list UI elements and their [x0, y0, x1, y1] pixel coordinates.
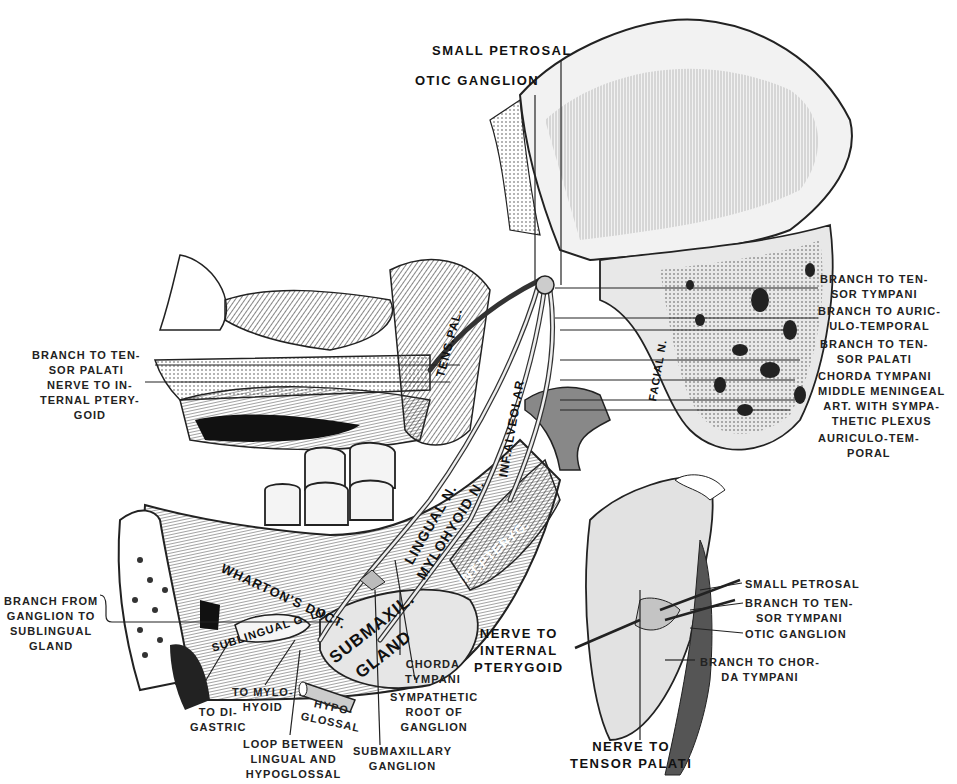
inset-label-branch-to-chorda-tympani: BRANCH TO CHOR- DA TYMPANI	[700, 655, 820, 685]
label-chorda-tympani-bottom: CHORDA TYMPANI	[405, 657, 461, 687]
label-line: SUBLINGUAL	[4, 624, 98, 639]
label-line: SUBMAXILLARY	[353, 744, 452, 759]
label-line: TO MYLO-	[232, 685, 294, 700]
label-line: SOR PALATI	[820, 352, 929, 367]
label-otic-ganglion: OTIC GANGLION	[415, 72, 539, 89]
label-line: NERVE TO	[570, 738, 692, 755]
label-line: ART. WITH SYMPA-	[818, 399, 945, 414]
label-branch-to-tensor-palati-right: BRANCH TO TEN- SOR PALATI	[820, 337, 929, 367]
label-loop-between-lingual-and-hypoglossal: LOOP BETWEEN LINGUAL AND HYPOGLOSSAL	[243, 737, 344, 782]
label-line: BRANCH TO TEN-	[820, 272, 929, 287]
label-line: ULO-TEMPORAL	[818, 319, 941, 334]
label-line: SMALL PETROSAL	[745, 577, 860, 592]
label-line: GANGLION	[390, 720, 478, 735]
label-branch-to-tensor-palati-left: BRANCH TO TEN- SOR PALATI	[32, 348, 141, 378]
label-line: PTERYGOID	[474, 659, 564, 676]
label-chorda-tympani-right: CHORDA TYMPANI	[818, 369, 932, 384]
label-line: TERNAL PTERY-	[40, 393, 140, 408]
label-line: THETIC PLEXUS	[818, 414, 945, 429]
label-line: MIDDLE MENINGEAL	[818, 384, 945, 399]
label-line: LOOP BETWEEN	[243, 737, 344, 752]
label-line: SYMPATHETIC	[390, 690, 478, 705]
label-line: BRANCH TO TEN-	[745, 596, 854, 611]
inset-label-branch-to-tensor-tympani: BRANCH TO TEN- SOR TYMPANI	[745, 596, 854, 626]
label-line: NERVE TO	[474, 625, 564, 642]
label-line: OTIC GANGLION	[745, 627, 847, 642]
maxilla-region	[155, 255, 430, 449]
label-line: TYMPANI	[405, 672, 461, 687]
label-line: BRANCH TO TEN-	[32, 348, 141, 363]
label-middle-meningeal-artery: MIDDLE MENINGEAL ART. WITH SYMPA- THETIC…	[818, 384, 945, 429]
label-line: TENSOR PALATI	[570, 755, 692, 772]
label-line: HYPOGLOSSAL	[243, 767, 344, 782]
label-line: BRANCH TO CHOR-	[700, 655, 820, 670]
inset-otic-ganglion	[575, 475, 740, 775]
label-line: NERVE TO IN-	[40, 378, 140, 393]
inset-label-small-petrosal: SMALL PETROSAL	[745, 577, 860, 592]
label-line: GASTRIC	[190, 720, 247, 735]
inset-label-nerve-to-internal-pterygoid: NERVE TO INTERNAL PTERYGOID	[474, 625, 564, 676]
label-small-petrosal: SMALL PETROSAL	[432, 42, 572, 59]
label-branch-from-ganglion-to-sublingual: BRANCH FROM GANGLION TO SUBLINGUAL GLAND	[4, 594, 98, 654]
label-auriculotemporal: AURICULO-TEM- PORAL	[818, 431, 920, 461]
molar-teeth	[265, 443, 395, 525]
label-line: GANGLION	[353, 759, 452, 774]
otic-ganglion-mark	[536, 276, 554, 294]
label-line: AURICULO-TEM-	[818, 431, 920, 446]
label-line: PORAL	[818, 446, 920, 461]
label-branch-to-tensor-tympani: BRANCH TO TEN- SOR TYMPANI	[820, 272, 929, 302]
label-line: GANGLION TO	[4, 609, 98, 624]
label-line: SOR TYMPANI	[745, 611, 854, 626]
label-branch-to-auriculotemporal: BRANCH TO AURIC- ULO-TEMPORAL	[818, 304, 941, 334]
inset-label-otic-ganglion: OTIC GANGLION	[745, 627, 847, 642]
label-line: DA TYMPANI	[700, 670, 820, 685]
label-line: GLAND	[4, 639, 98, 654]
label-line: CHORDA	[405, 657, 461, 672]
label-line: INTERNAL	[474, 642, 564, 659]
label-line: SOR TYMPANI	[820, 287, 929, 302]
label-line: HYOID	[232, 700, 294, 715]
label-line: ROOT OF	[390, 705, 478, 720]
label-sympathetic-root-of-ganglion: SYMPATHETIC ROOT OF GANGLION	[390, 690, 478, 735]
label-nerve-to-internal-pterygoid: NERVE TO IN- TERNAL PTERY- GOID	[40, 378, 140, 423]
label-line: LINGUAL AND	[243, 752, 344, 767]
skull-temporal-region	[490, 20, 852, 450]
label-to-mylohyoid: TO MYLO- HYOID	[232, 685, 294, 715]
label-line: GOID	[40, 408, 140, 423]
label-line: BRANCH FROM	[4, 594, 98, 609]
label-line: BRANCH TO AURIC-	[818, 304, 941, 319]
label-submaxillary-ganglion: SUBMAXILLARY GANGLION	[353, 744, 452, 774]
label-line: CHORDA TYMPANI	[818, 369, 932, 384]
label-line: BRANCH TO TEN-	[820, 337, 929, 352]
label-line: SOR PALATI	[32, 363, 141, 378]
inset-label-nerve-to-tensor-palati: NERVE TO TENSOR PALATI	[570, 738, 692, 772]
